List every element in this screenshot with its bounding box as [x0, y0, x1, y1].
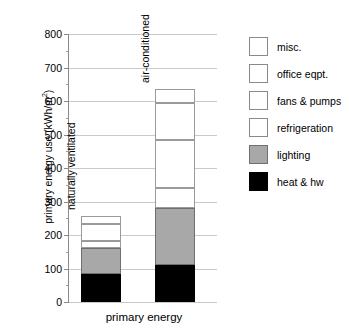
y-axis-minor-tick — [66, 252, 69, 253]
y-axis-tick — [64, 68, 69, 69]
y-axis-tick — [64, 34, 69, 35]
legend-label: fans & pumps — [277, 95, 341, 107]
plot-area: 0100200300400500600700800naturally venti… — [68, 34, 216, 302]
bar-segment-refrigeration[interactable] — [155, 188, 195, 208]
legend-item[interactable]: fans & pumps — [249, 87, 349, 114]
y-axis-tick-label: 100 — [44, 263, 62, 275]
y-axis-tick-label: 500 — [44, 129, 62, 141]
y-axis-title-close: ) — [42, 90, 54, 93]
y-axis-minor-tick — [66, 118, 69, 119]
legend-swatch-office-eqpt- — [249, 64, 268, 83]
bar-air-conditioned[interactable]: air-conditioned — [155, 34, 195, 302]
chart-figure: primary energy use (kWh/m2) 010020030040… — [0, 0, 349, 336]
y-axis-tick — [64, 101, 69, 102]
y-axis-tick-label: 200 — [44, 229, 62, 241]
legend-label: misc. — [277, 41, 302, 53]
legend-swatch-lighting — [249, 145, 268, 164]
bar-segment-office-eqpt-[interactable] — [81, 216, 121, 224]
y-axis-minor-tick — [66, 285, 69, 286]
legend-item[interactable]: refrigeration — [249, 114, 349, 141]
chart-legend: misc.office eqpt.fans & pumpsrefrigerati… — [249, 33, 349, 195]
y-axis-tick — [64, 235, 69, 236]
legend-label: office eqpt. — [277, 68, 328, 80]
y-axis-tick-label: 0 — [56, 296, 62, 308]
legend-item[interactable]: heat & hw — [249, 168, 349, 195]
x-axis-title: primary energy — [68, 311, 220, 323]
bar-segment-refrigeration[interactable] — [81, 241, 121, 248]
legend-item[interactable]: lighting — [249, 141, 349, 168]
y-axis-minor-tick — [66, 218, 69, 219]
y-axis-minor-tick — [66, 51, 69, 52]
bar-segment-heat-hw[interactable] — [155, 265, 195, 302]
y-axis-tick — [64, 302, 69, 303]
bar-label-air-conditioned: air-conditioned — [139, 14, 151, 83]
bar-segment-fans-pumps[interactable] — [81, 224, 121, 241]
y-axis-tick-label: 700 — [44, 62, 62, 74]
legend-label: heat & hw — [277, 176, 324, 188]
bar-segment-misc-[interactable] — [155, 89, 195, 102]
bar-label-naturally-ventilated: naturally ventilated — [65, 122, 77, 210]
y-gridline — [69, 302, 217, 303]
y-axis-tick — [64, 269, 69, 270]
legend-label: lighting — [277, 149, 310, 161]
legend-label: refrigeration — [277, 122, 333, 134]
legend-item[interactable]: misc. — [249, 33, 349, 60]
legend-swatch-fans-pumps — [249, 91, 268, 110]
legend-swatch-misc- — [249, 37, 268, 56]
bar-naturally-ventilated[interactable]: naturally ventilated — [81, 34, 121, 302]
bar-segment-fans-pumps[interactable] — [155, 140, 195, 189]
legend-swatch-heat-hw — [249, 172, 268, 191]
y-axis-minor-tick — [66, 84, 69, 85]
legend-swatch-refrigeration — [249, 118, 268, 137]
y-axis-tick-label: 300 — [44, 196, 62, 208]
bar-segment-office-eqpt-[interactable] — [155, 103, 195, 140]
legend-item[interactable]: office eqpt. — [249, 60, 349, 87]
y-axis-tick-label: 600 — [44, 95, 62, 107]
bar-segment-lighting[interactable] — [155, 208, 195, 265]
bar-segment-lighting[interactable] — [81, 248, 121, 273]
bar-segment-heat-hw[interactable] — [81, 274, 121, 302]
y-axis-tick-label: 800 — [44, 28, 62, 40]
y-axis-tick-label: 400 — [44, 162, 62, 174]
